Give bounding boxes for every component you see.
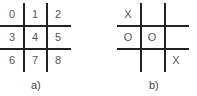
grid-b-cell-5 — [165, 26, 187, 48]
grid-a-cell-8: 8 — [47, 49, 69, 71]
grid-b-cell-6 — [117, 49, 139, 71]
grid-b-cell-2 — [165, 3, 187, 25]
grid-b-cell-3: O — [117, 26, 139, 48]
caption-a: a) — [31, 79, 41, 91]
caption-b: b) — [149, 79, 159, 91]
grid-a-cell-2: 2 — [47, 3, 69, 25]
grid-b-cell-0: X — [117, 3, 139, 25]
grid-a-cell-3: 3 — [1, 26, 23, 48]
grid-b-cell-1 — [141, 3, 163, 25]
grid-b-cell-4: O — [141, 26, 163, 48]
grid-a-cell-6: 6 — [1, 49, 23, 71]
grid-a-cell-7: 7 — [24, 49, 46, 71]
grid-a-cell-4: 4 — [24, 26, 46, 48]
grid-a-cell-5: 5 — [47, 26, 69, 48]
grid-b-cell-8: X — [165, 49, 187, 71]
grid-a-cell-0: 0 — [1, 3, 23, 25]
grid-b-cell-7 — [141, 49, 163, 71]
grid-a-cell-1: 1 — [24, 3, 46, 25]
